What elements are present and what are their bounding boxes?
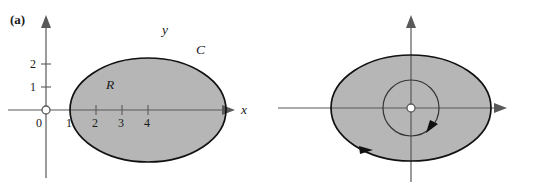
y-axis-label: y bbox=[162, 22, 168, 38]
panel-b: (b) y x 0 -3 1 3 2 R' D C bbox=[266, 0, 533, 193]
origin-marker bbox=[42, 106, 50, 114]
panel-a-graphics bbox=[0, 0, 266, 193]
x-axis-label: x bbox=[241, 102, 247, 118]
x-tick-label-2: 2 bbox=[92, 116, 98, 131]
panel-b-graphics bbox=[266, 0, 533, 193]
y-tick-label-2: 2 bbox=[30, 57, 36, 72]
region-r-label: R bbox=[106, 77, 114, 93]
y-axis-arrowhead bbox=[406, 15, 416, 28]
panel-a: (a) y x 0 1 2 3 4 bbox=[0, 0, 266, 193]
curve-c-label: C bbox=[196, 42, 205, 58]
x-tick-label-1: 1 bbox=[66, 116, 72, 131]
figure-container: (a) y x 0 1 2 3 4 bbox=[0, 0, 533, 193]
x-tick-label-3: 3 bbox=[118, 116, 124, 131]
origin-label: 0 bbox=[36, 116, 42, 131]
x-axis-arrowhead bbox=[494, 103, 507, 113]
x-axis-arrowhead bbox=[222, 105, 235, 115]
y-tick-label-1: 1 bbox=[30, 80, 36, 95]
origin-marker bbox=[407, 104, 415, 112]
y-axis-arrowhead bbox=[41, 15, 51, 28]
x-tick-label-4: 4 bbox=[144, 116, 150, 131]
